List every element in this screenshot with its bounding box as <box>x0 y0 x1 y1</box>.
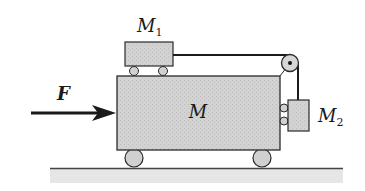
top-block-wheels <box>130 67 168 76</box>
wheel-icon <box>280 117 288 125</box>
force-label: F <box>56 83 71 104</box>
force-arrow: F <box>31 83 116 121</box>
top-block-label: M1 <box>136 15 162 39</box>
hanging-block-label: M2 <box>317 105 343 129</box>
wheel-icon <box>159 67 168 76</box>
wheel-icon <box>253 149 271 167</box>
pulley-axle <box>288 61 292 65</box>
hanging-block-body <box>288 100 309 131</box>
cart-pulley-diagram: M M1 M2 F <box>0 0 365 191</box>
big-cart-wheels <box>125 149 271 167</box>
wheel-icon <box>125 149 143 167</box>
wheel-icon <box>280 104 288 112</box>
top-block-M1: M1 <box>125 15 173 66</box>
hanging-block-wheels <box>280 104 288 125</box>
top-block-body <box>125 42 173 66</box>
ground <box>50 169 343 184</box>
wheel-icon <box>130 67 139 76</box>
ground-band <box>50 169 343 183</box>
pulley <box>280 55 299 77</box>
big-cart-label: M <box>188 101 208 122</box>
big-cart-M: M <box>117 76 280 150</box>
hanging-block-M2: M2 <box>288 100 343 131</box>
